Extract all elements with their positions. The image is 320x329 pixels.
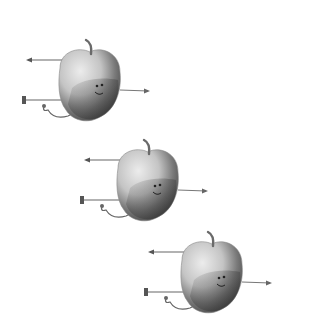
apple-character-icon: [20, 38, 160, 133]
apple-character-2: [78, 138, 218, 233]
apple-character-icon: [78, 138, 218, 233]
apple-character-icon: [142, 230, 282, 325]
apple-character-3: [142, 230, 282, 325]
apple-character-1: [20, 38, 160, 133]
